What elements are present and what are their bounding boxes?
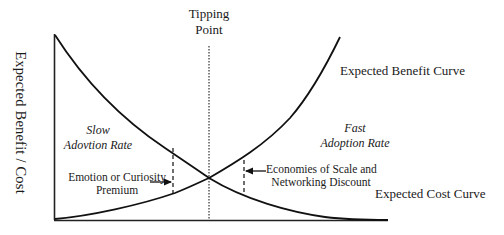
fast-adoption-line2: Adoption Rate <box>310 136 400 151</box>
slow-adoption-label: Slow Adovtion Rate <box>58 123 138 153</box>
benefit-curve-label: Expected Benefit Curve <box>340 63 465 79</box>
emotion-premium-line1: Emotion or Curiosity <box>62 171 172 184</box>
y-axis-label-text: Expected Benefit / Cost <box>12 51 29 194</box>
slow-adoption-line2: Adovtion Rate <box>58 138 138 153</box>
emotion-premium-label: Emotion or Curiosity Premium <box>62 171 172 197</box>
fast-adoption-label: Fast Adoption Rate <box>310 121 400 151</box>
economies-discount-line2: Networking Discount <box>266 176 376 189</box>
slow-adoption-line1: Slow <box>58 123 138 138</box>
fast-adoption-line1: Fast <box>310 121 400 136</box>
cost-curve-label: Expected Cost Curve <box>375 186 485 202</box>
y-axis-label: Expected Benefit / Cost <box>9 38 31 206</box>
tipping-point-label: Tipping Point <box>178 6 240 38</box>
economies-discount-line1: Economies of Scale and <box>266 163 376 176</box>
tipping-point-line1: Tipping <box>178 6 240 22</box>
tipping-point-line2: Point <box>178 22 240 38</box>
economies-discount-label: Economies of Scale and Networking Discou… <box>266 163 376 189</box>
emotion-premium-line2: Premium <box>62 184 172 197</box>
